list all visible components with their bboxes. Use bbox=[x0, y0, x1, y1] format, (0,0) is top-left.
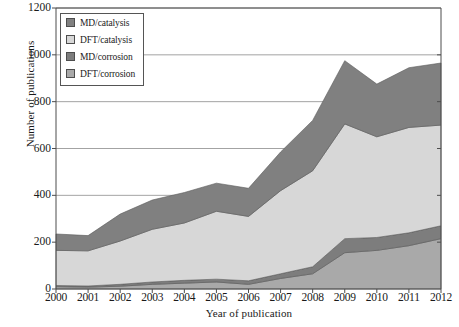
chart-legend: MD/catalysisDFT/catalysisMD/corrosionDFT… bbox=[60, 13, 144, 86]
legend-swatch-icon bbox=[66, 18, 75, 27]
legend-item-label: MD/corrosion bbox=[80, 52, 133, 62]
stacked-area-chart-figure: Number of publications 02004006008001000… bbox=[0, 0, 459, 327]
legend-item: MD/catalysis bbox=[61, 14, 143, 31]
legend-item: MD/corrosion bbox=[61, 48, 143, 65]
legend-swatch-icon bbox=[66, 69, 75, 78]
legend-item-label: DFT/corrosion bbox=[80, 69, 135, 79]
legend-item: DFT/corrosion bbox=[61, 65, 143, 82]
legend-item-label: MD/catalysis bbox=[80, 18, 129, 28]
legend-swatch-icon bbox=[66, 52, 75, 61]
legend-swatch-icon bbox=[66, 35, 75, 44]
legend-item: DFT/catalysis bbox=[61, 31, 143, 48]
legend-item-label: DFT/catalysis bbox=[80, 35, 132, 45]
